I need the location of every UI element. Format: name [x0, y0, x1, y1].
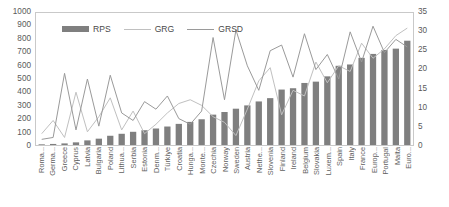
y-axis-right: 35302520151050	[415, 0, 449, 207]
x-axis-label: Türkiye	[163, 147, 172, 171]
chart-legend: RPS GRG GRSD	[62, 24, 243, 34]
legend-item-grsd: GRSD	[187, 24, 243, 34]
legend-item-grg: GRG	[124, 24, 175, 34]
y-axis-right-tick: 20	[418, 64, 427, 73]
x-axis-label: Luxem...	[324, 147, 333, 175]
x-axis-label: Euro...	[404, 147, 413, 169]
bar-rps	[61, 143, 67, 145]
y-axis-left: 10009008007006005004003002001000	[0, 0, 34, 207]
x-axis-label: Poland	[106, 147, 115, 170]
bar-rps	[130, 132, 136, 145]
bar-rps	[278, 90, 284, 145]
y-axis-left-tick: 800	[17, 34, 31, 43]
bar-rps	[164, 127, 170, 145]
bar-rps	[381, 50, 387, 145]
x-axis-label: Spain	[335, 147, 344, 166]
x-axis-label: Czechia	[209, 147, 218, 174]
x-axis-labels: Roma...Germa...GreeceCyprusLatviaBulgari…	[35, 147, 414, 207]
bar-rps	[290, 88, 296, 145]
x-axis-label: Slovenia	[266, 147, 275, 175]
bar-rps	[370, 54, 376, 145]
x-axis-label: Finland	[278, 147, 287, 171]
bar-rps	[176, 124, 182, 145]
y-axis-right-tick: 5	[418, 122, 423, 131]
x-axis-label: Sweden	[232, 147, 241, 174]
x-axis-label: Estonia	[140, 147, 149, 172]
y-axis-left-tick: 200	[17, 114, 31, 123]
bar-rps	[324, 76, 330, 145]
x-axis-label: Greece	[60, 147, 69, 171]
bar-rps	[313, 82, 319, 145]
y-axis-left-tick: 100	[17, 128, 31, 137]
bar-rps	[404, 41, 410, 145]
bar-rps	[119, 134, 125, 145]
line-swatch-dark-icon	[187, 29, 214, 30]
x-axis-label: Austria	[243, 147, 252, 170]
bar-rps	[221, 112, 227, 145]
x-axis-label: Nethe...	[255, 147, 264, 173]
y-axis-left-tick: 600	[17, 61, 31, 70]
x-axis-label: Latvia	[83, 147, 92, 167]
y-axis-left-tick: 0	[26, 141, 31, 150]
x-axis-label: Ireland	[289, 147, 298, 170]
bar-rps	[210, 115, 216, 145]
bar-rps	[358, 58, 364, 145]
x-axis-label: Bulgaria	[94, 147, 103, 174]
bar-rps	[50, 144, 56, 145]
x-axis-label: Denm...	[152, 147, 161, 173]
y-axis-left-tick: 700	[17, 47, 31, 56]
bar-rps	[39, 144, 45, 145]
y-axis-right-tick: 25	[418, 45, 427, 54]
legend-label-rps: RPS	[93, 24, 111, 34]
y-axis-left-tick: 1000	[13, 7, 31, 16]
legend-label-grg: GRG	[155, 24, 175, 34]
line-swatch-icon	[124, 29, 151, 30]
bar-rps	[199, 119, 205, 145]
y-axis-right-tick: 15	[418, 84, 427, 93]
x-axis-label: Norway	[221, 147, 230, 172]
x-axis-label: Europ...	[370, 147, 379, 173]
bar-rps	[73, 142, 79, 145]
x-axis-label: Malta	[393, 147, 402, 165]
chart-container: 10009008007006005004003002001000 3530252…	[0, 0, 449, 207]
x-axis-label: Italy	[347, 147, 356, 161]
x-axis-label: Portugal	[381, 147, 390, 175]
y-axis-right-tick: 30	[418, 26, 427, 35]
y-axis-left-tick: 900	[17, 20, 31, 29]
bar-rps	[153, 129, 159, 146]
x-axis-label: Monte...	[198, 147, 207, 174]
x-axis-label: Roma...	[37, 147, 46, 173]
bar-rps	[107, 136, 113, 145]
bar-rps	[347, 64, 353, 145]
bar-rps	[187, 122, 193, 145]
y-axis-left-tick: 500	[17, 74, 31, 83]
y-axis-left-tick: 300	[17, 101, 31, 110]
bar-rps	[256, 101, 262, 145]
y-axis-right-tick: 35	[418, 7, 427, 16]
legend-label-grsd: GRSD	[218, 24, 243, 34]
x-axis-label: Croatia	[175, 147, 184, 171]
x-axis-label: Cyprus	[71, 147, 80, 170]
bar-rps	[96, 139, 102, 145]
y-axis-right-tick: 10	[418, 103, 427, 112]
y-axis-right-tick: 0	[418, 141, 423, 150]
x-axis-label: Serbia	[129, 147, 138, 168]
bar-rps	[393, 49, 399, 145]
x-axis-label: Slovakia	[312, 147, 321, 175]
legend-item-rps: RPS	[62, 24, 111, 34]
x-axis-label: Belgium	[301, 147, 310, 174]
bar-rps	[244, 105, 250, 145]
y-axis-left-tick: 400	[17, 87, 31, 96]
bar-rps	[84, 140, 90, 145]
bar-rps	[267, 98, 273, 145]
x-axis-label: Lithua...	[117, 147, 126, 173]
x-axis-label: France	[358, 147, 367, 170]
bar-rps	[301, 83, 307, 145]
bar-rps	[233, 109, 239, 145]
bar-swatch-icon	[62, 26, 89, 32]
x-axis-label: Germa...	[48, 147, 57, 176]
x-axis-label: Hunga...	[186, 147, 195, 175]
